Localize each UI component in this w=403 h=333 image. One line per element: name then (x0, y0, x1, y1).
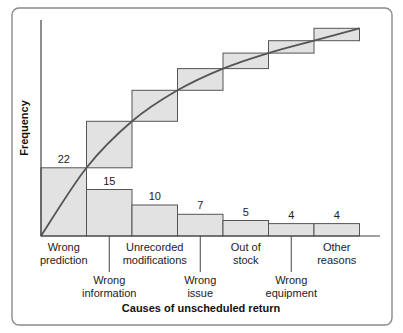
category-label: stock (233, 254, 259, 266)
bar-value-label: 15 (103, 175, 115, 187)
category-label: modifications (123, 254, 188, 266)
category-label: prediction (40, 254, 88, 266)
bar-value-label: 7 (197, 199, 203, 211)
bar-value-label: 4 (334, 209, 340, 221)
category-label: Out of (231, 241, 262, 253)
bar (223, 221, 269, 237)
category-label: Wrong (48, 241, 80, 253)
category-label: Unrecorded (126, 241, 183, 253)
category-label: Wrong (184, 274, 216, 286)
y-axis-title: Frequency (18, 99, 30, 156)
bar (269, 224, 315, 236)
bar-value-label: 5 (243, 206, 249, 218)
category-label: Wrong (93, 274, 125, 286)
bar-value-label: 22 (58, 153, 70, 165)
bar-value-label: 10 (149, 190, 161, 202)
x-axis-title: Causes of unscheduled return (122, 302, 281, 314)
category-label: issue (187, 287, 213, 299)
bar-value-label: 4 (288, 209, 294, 221)
bar (314, 224, 360, 236)
category-label: information (82, 287, 136, 299)
bar (132, 205, 178, 236)
bar (178, 214, 224, 236)
category-label: equipment (266, 287, 317, 299)
bar (87, 190, 133, 237)
category-label: reasons (317, 254, 357, 266)
category-label: Other (323, 241, 351, 253)
category-label: Wrong (275, 274, 307, 286)
pareto-chart: 2215107544 WrongpredictionWronginformati… (0, 0, 403, 333)
